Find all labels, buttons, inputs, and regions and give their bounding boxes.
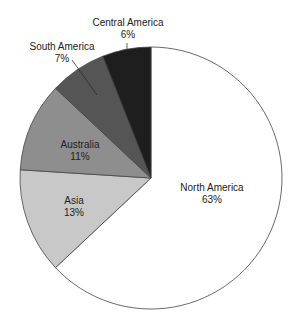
pie-slices bbox=[20, 47, 282, 309]
label-asia-name: Asia bbox=[64, 195, 84, 206]
label-south-america-name: South America bbox=[29, 41, 94, 52]
pie-chart: North America63%Asia13%Australia11%South… bbox=[0, 0, 294, 324]
label-central-america-name: Central America bbox=[92, 17, 164, 28]
label-north-america-name: North America bbox=[180, 182, 244, 193]
label-asia-percent: 13% bbox=[64, 207, 84, 218]
label-central-america-percent: 6% bbox=[121, 29, 136, 40]
label-north-america-percent: 63% bbox=[202, 194, 222, 205]
label-australia-name: Australia bbox=[61, 139, 100, 150]
label-south-america-percent: 7% bbox=[55, 53, 70, 64]
label-australia-percent: 11% bbox=[70, 151, 89, 162]
